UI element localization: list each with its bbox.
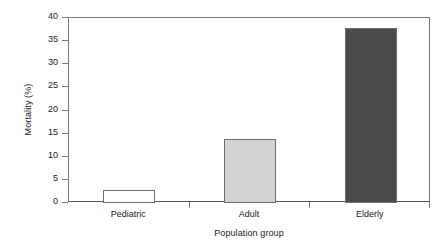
x-axis-tick-label: Pediatric — [68, 208, 188, 220]
y-axis-tick-label: 5 — [22, 174, 58, 183]
x-axis-title: Population group — [68, 228, 430, 238]
y-axis-tick-label: 25 — [22, 81, 58, 90]
y-axis-tick-label: 20 — [22, 105, 58, 114]
plot-area — [68, 17, 430, 202]
y-axis-tick-label: 30 — [22, 58, 58, 67]
x-axis-tick-label: Elderly — [310, 208, 430, 220]
x-axis-tick-label: Adult — [189, 208, 309, 220]
y-axis-tick — [62, 202, 68, 203]
y-axis-tick-label: 0 — [22, 197, 58, 206]
bar-elderly — [345, 28, 397, 203]
bar-adult — [224, 139, 276, 203]
y-axis-tick-label: 35 — [22, 35, 58, 44]
bar-pediatric — [103, 190, 155, 203]
bar-chart: Mortality (%) 4035302520151050 Pediatric… — [0, 0, 448, 248]
y-axis-tick-label: 15 — [22, 128, 58, 137]
y-axis-tick-label: 40 — [22, 12, 58, 21]
y-axis-tick-label: 10 — [22, 151, 58, 160]
